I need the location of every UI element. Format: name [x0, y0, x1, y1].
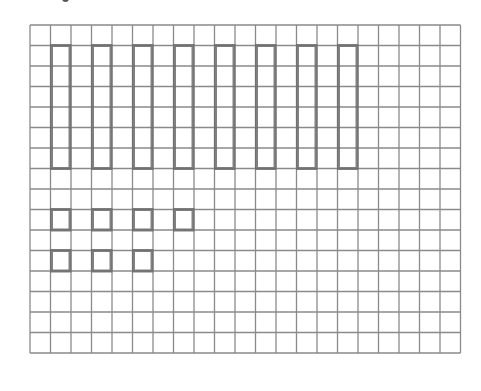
small-square — [52, 251, 71, 272]
small-square — [52, 210, 71, 231]
small-squares-group — [52, 210, 194, 272]
small-square — [134, 210, 153, 231]
small-square — [134, 251, 153, 272]
grid-lines — [30, 25, 461, 353]
small-square — [175, 210, 194, 231]
grid-paper-figure — [0, 0, 481, 391]
small-square — [93, 251, 112, 272]
grid-drawing — [0, 0, 481, 391]
small-square — [93, 210, 112, 231]
